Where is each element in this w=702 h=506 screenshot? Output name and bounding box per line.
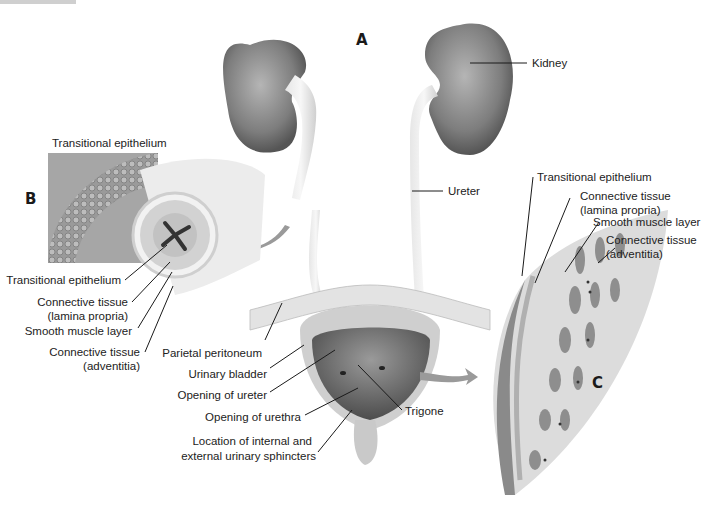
- label-trigone: Trigone: [405, 404, 444, 418]
- label-sphincters-line1: Location of internal and: [150, 434, 312, 448]
- panel-label-b: B: [25, 190, 36, 208]
- label-b-connective-adv-2: (adventitia): [30, 359, 140, 373]
- label-c-transitional-epithelium: Transitional epithelium: [537, 170, 652, 184]
- label-ureter: Ureter: [448, 184, 480, 198]
- label-c-smooth-muscle: Smooth muscle layer: [593, 215, 700, 229]
- panel-label-c: C: [592, 374, 603, 392]
- label-b-connective-lp-2: (lamina propria): [20, 309, 128, 323]
- label-c-connective-adv-2: (adventitia): [606, 247, 663, 261]
- label-opening-of-urethra: Opening of urethra: [180, 410, 301, 424]
- right-kidney: [410, 24, 513, 300]
- urinary-system-illustration: [0, 0, 702, 506]
- label-b-transitional-epithelium: Transitional epithelium: [0, 273, 121, 287]
- label-urinary-bladder: Urinary bladder: [160, 367, 267, 381]
- label-b-connective-lp-1: Connective tissue: [20, 295, 128, 309]
- label-b-inset-title: Transitional epithelium: [52, 136, 167, 150]
- label-b-smooth-muscle: Smooth muscle layer: [20, 324, 132, 338]
- label-c-connective-lp-1: Connective tissue: [580, 189, 671, 203]
- label-c-connective-adv-1: Connective tissue: [606, 233, 697, 247]
- label-b-connective-adv-1: Connective tissue: [30, 345, 140, 359]
- ureter-segment: [309, 210, 323, 300]
- label-opening-of-ureter: Opening of ureter: [150, 388, 267, 402]
- label-kidney: Kidney: [532, 56, 567, 70]
- label-parietal-peritoneum: Parietal peritoneum: [150, 346, 262, 360]
- panel-label-a: A: [356, 31, 368, 49]
- label-sphincters-line2: external urinary sphincters: [150, 449, 316, 463]
